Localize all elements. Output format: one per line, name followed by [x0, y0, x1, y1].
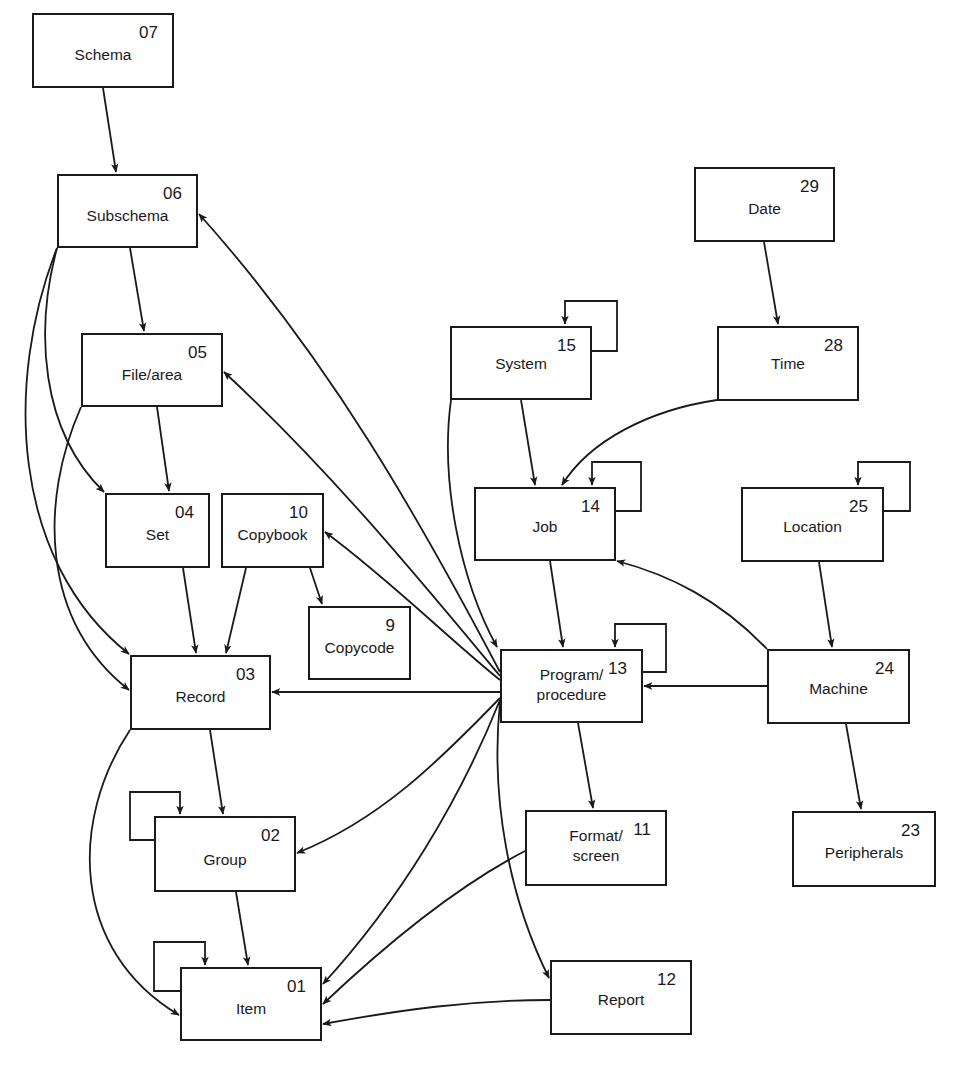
arrow-format-to-item	[323, 851, 525, 1004]
entity-box-schema: 07Schema	[32, 13, 174, 88]
entity-box-copycode: 9Copycode	[308, 606, 411, 680]
entity-number: 07	[139, 24, 158, 41]
entity-box-job: 14Job	[474, 487, 616, 561]
arrow-program-to-item	[323, 700, 500, 984]
entity-number: 03	[236, 666, 255, 683]
entity-label: Machine	[769, 679, 908, 699]
entity-box-group: 02Group	[154, 816, 296, 892]
entity-label: File/area	[83, 365, 221, 385]
arrow-job-to-program	[550, 561, 563, 647]
arrow-group-to-item	[236, 892, 248, 965]
entity-label: Location	[743, 517, 882, 537]
entity-label: Schema	[34, 45, 172, 65]
entity-label: System	[452, 354, 590, 374]
arrow-set-to-record	[183, 568, 196, 653]
entity-box-copybook: 10Copybook	[221, 493, 324, 568]
entity-number: 04	[175, 504, 194, 521]
arrow-location-to-machine	[819, 562, 832, 647]
entity-label: Set	[107, 525, 208, 545]
arrow-system-to-job	[521, 400, 535, 485]
arrow-copybook-to-record	[226, 568, 246, 653]
entity-number: 25	[849, 498, 868, 515]
entity-number: 12	[657, 971, 676, 988]
entity-number: 15	[557, 337, 576, 354]
entity-box-program-procedure: 13Program/ procedure	[500, 649, 643, 723]
entity-box-location: 25Location	[741, 487, 884, 562]
entity-box-format-screen: 11Format/ screen	[525, 810, 667, 886]
entity-label: Group	[156, 850, 294, 870]
entity-box-item: 01Item	[180, 967, 322, 1041]
entity-box-set: 04Set	[105, 493, 210, 568]
entity-label: Job	[476, 517, 614, 537]
entity-box-file-area: 05File/area	[81, 333, 223, 407]
arrow-time-to-job	[562, 400, 717, 485]
entity-label: Copybook	[223, 525, 322, 545]
entity-box-subschema: 06Subschema	[57, 174, 198, 248]
entity-box-record: 03Record	[130, 655, 271, 730]
arrow-date-to-time	[764, 242, 778, 324]
entity-number: 23	[901, 822, 920, 839]
entity-box-peripherals: 23Peripherals	[792, 811, 936, 887]
entity-number: 9	[386, 617, 395, 634]
entity-number: 06	[163, 185, 182, 202]
arrow-report-to-item	[323, 1000, 550, 1024]
arrow-machine-to-job	[617, 561, 767, 649]
entity-box-date: 29Date	[694, 167, 835, 242]
entity-number: 01	[287, 978, 306, 995]
diagram-canvas: 07Schema06Subschema05File/area04Set10Cop…	[0, 0, 961, 1070]
entity-box-time: 28Time	[717, 326, 859, 401]
arrow-program-to-format	[578, 723, 593, 808]
arrow-subschema-to-record	[26, 248, 129, 654]
arrow-copybook-to-copycode	[310, 568, 322, 604]
entity-label: Time	[719, 354, 857, 374]
entity-label: Subschema	[59, 206, 196, 226]
entity-label: Program/ procedure	[502, 665, 641, 705]
entity-box-machine: 24Machine	[767, 649, 910, 724]
entity-label: Item	[182, 999, 320, 1019]
entity-number: 24	[875, 660, 894, 677]
arrow-machine-to-peripherals	[846, 724, 861, 809]
arrow-schema-to-subschema	[103, 88, 116, 172]
entity-label: Report	[552, 990, 690, 1010]
arrow-program-to-subschema	[199, 214, 500, 672]
entity-box-report: 12Report	[550, 960, 692, 1035]
arrow-program-to-group	[297, 698, 500, 853]
entity-label: Record	[132, 687, 269, 707]
entity-number: 28	[824, 337, 843, 354]
entity-number: 10	[289, 504, 308, 521]
arrow-file-area-to-set	[157, 407, 169, 491]
entity-number: 02	[261, 827, 280, 844]
entity-number: 14	[581, 498, 600, 515]
arrow-subschema-to-file-area	[130, 248, 144, 331]
entity-number: 05	[188, 344, 207, 361]
entity-label: Date	[696, 199, 833, 219]
arrow-record-to-group	[210, 730, 223, 814]
entity-label: Copycode	[310, 638, 409, 658]
entity-box-system: 15System	[450, 326, 592, 400]
entity-label: Peripherals	[794, 843, 934, 863]
entity-number: 29	[800, 178, 819, 195]
entity-label: Format/ screen	[527, 826, 665, 866]
